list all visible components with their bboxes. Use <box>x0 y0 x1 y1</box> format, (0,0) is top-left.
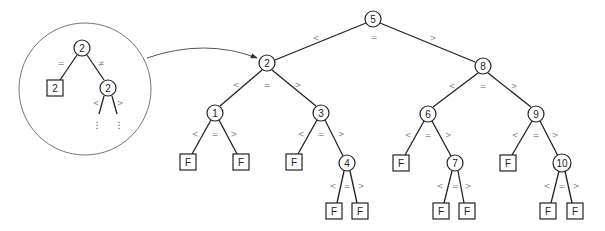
tree-node-3: 3 <box>313 105 329 121</box>
edge-label: > <box>573 182 580 191</box>
svg-text:2: 2 <box>264 58 270 69</box>
svg-text:9: 9 <box>533 109 539 120</box>
edge-label: = <box>371 33 378 42</box>
tree-node-9: 9 <box>528 106 544 122</box>
edge-label: > <box>338 130 345 139</box>
svg-text:F: F <box>505 158 511 169</box>
inset-label-eq: = <box>58 59 65 68</box>
inset-magnifier: 2 2 2 = ≠ < > ⋮ ⋮ <box>19 23 151 155</box>
edge-label: < <box>544 182 551 191</box>
leaf-f: F <box>540 203 556 219</box>
svg-text:F: F <box>291 157 297 168</box>
edge-label: < <box>233 81 240 90</box>
edge-label: = <box>480 82 487 91</box>
edge-label: > <box>552 131 559 140</box>
inset-node-2-child: 2 <box>100 80 116 96</box>
edge-label: = <box>344 182 351 191</box>
svg-text:5: 5 <box>370 14 376 25</box>
svg-text:2: 2 <box>52 83 58 94</box>
leaf-f: F <box>326 203 342 219</box>
edge-label: > <box>358 182 365 191</box>
svg-text:3: 3 <box>318 108 324 119</box>
tree-node-10: 10 <box>553 154 571 172</box>
inset-label-lt: < <box>93 99 100 108</box>
svg-text:F: F <box>238 157 244 168</box>
svg-text:1: 1 <box>212 108 218 119</box>
svg-text:6: 6 <box>425 109 431 120</box>
edge-label: > <box>295 81 302 90</box>
svg-text:F: F <box>545 206 551 217</box>
leaf-f: F <box>233 154 249 170</box>
leaf-f: F <box>500 155 516 171</box>
ternary-search-tree-diagram: 2 2 2 = ≠ < > ⋮ ⋮ <box>0 0 605 231</box>
edge-label: = <box>264 81 271 90</box>
leaf-f: F <box>393 155 409 171</box>
tree-node-5: 5 <box>365 11 381 27</box>
edge-label: < <box>330 182 337 191</box>
edge-label: < <box>512 131 519 140</box>
svg-text:F: F <box>185 157 191 168</box>
svg-text:F: F <box>572 206 578 217</box>
leaf-f: F <box>433 203 449 219</box>
svg-text:F: F <box>357 206 363 217</box>
inset-leaf-2: 2 <box>47 80 63 96</box>
tree-node-1: 1 <box>207 105 223 121</box>
edge-label: > <box>430 34 437 43</box>
tree-node-6: 6 <box>420 106 436 122</box>
inset-label-neq: ≠ <box>98 59 105 68</box>
edge-label: = <box>452 182 459 191</box>
edge-label: = <box>559 182 566 191</box>
edge-label: > <box>445 131 452 140</box>
edge-label: = <box>318 130 325 139</box>
leaf-f: F <box>180 154 196 170</box>
tree-node-2: 2 <box>259 55 275 71</box>
svg-text:F: F <box>464 206 470 217</box>
svg-text:2: 2 <box>79 43 85 54</box>
edge-label: > <box>465 182 472 191</box>
inset-label-gt: > <box>117 99 124 108</box>
leaf-f: F <box>352 203 368 219</box>
edge-labels: < = > < = > < = > < = > < = > < = > < = … <box>192 33 580 191</box>
svg-text:F: F <box>331 206 337 217</box>
zoom-arrow <box>147 48 257 58</box>
svg-text:8: 8 <box>480 61 486 72</box>
edge-label: < <box>437 182 444 191</box>
svg-text:F: F <box>438 206 444 217</box>
svg-text:10: 10 <box>556 158 568 169</box>
edge-label: = <box>212 130 219 139</box>
svg-text:F: F <box>398 158 404 169</box>
tree-node-7: 7 <box>447 155 463 171</box>
tree-node-8: 8 <box>475 58 491 74</box>
svg-text:4: 4 <box>344 158 350 169</box>
tree-edges <box>192 23 572 203</box>
svg-text:2: 2 <box>105 83 111 94</box>
edge-label: = <box>425 131 432 140</box>
inset-continuation-right: ⋮ <box>115 120 124 130</box>
edge-label: = <box>533 131 540 140</box>
edge-label: < <box>405 131 412 140</box>
tree-node-4: 4 <box>339 155 355 171</box>
svg-text:7: 7 <box>452 158 458 169</box>
leaf-f: F <box>459 203 475 219</box>
edge-label: < <box>192 130 199 139</box>
leaf-f: F <box>567 203 583 219</box>
inset-continuation-left: ⋮ <box>93 120 102 130</box>
inset-edge-lt <box>99 96 104 114</box>
inset-node-2: 2 <box>74 40 90 56</box>
edge-label: < <box>313 34 320 43</box>
edge-label: < <box>298 130 305 139</box>
leaf-f: F <box>286 154 302 170</box>
edge-label: > <box>231 130 238 139</box>
edge-label: > <box>511 82 518 91</box>
edge-label: < <box>449 82 456 91</box>
